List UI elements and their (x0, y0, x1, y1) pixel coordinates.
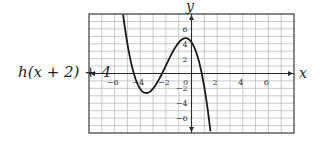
y-tick-label: 2 (182, 55, 187, 64)
y-axis-label: y (185, 0, 195, 14)
y-tick-label: −2 (176, 84, 188, 93)
function-label-text: h(x + 2) + 4 (18, 63, 111, 81)
x-axis-label: x (299, 65, 307, 81)
x-tick-label: 6 (264, 78, 269, 87)
y-tick-label: 4 (182, 40, 187, 49)
x-tick-label: 2 (213, 78, 218, 87)
axes (89, 14, 294, 133)
x-axis-arrow-right-icon (288, 71, 293, 76)
y-tick-label: −4 (176, 99, 188, 108)
function-curve (123, 14, 210, 131)
y-tick-label: −6 (176, 114, 188, 123)
x-tick-label: 4 (238, 78, 243, 87)
y-axis-arrow-up-icon (189, 15, 194, 20)
y-axis-arrow-down-icon (189, 127, 194, 132)
y-tick-label: 6 (182, 25, 187, 34)
function-label: h(x + 2) + 4 (18, 63, 111, 81)
